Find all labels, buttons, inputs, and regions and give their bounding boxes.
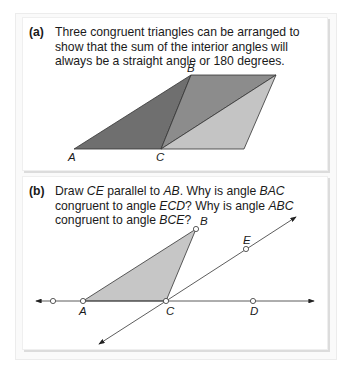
triangle-abc bbox=[83, 229, 196, 301]
line-ce-up bbox=[166, 217, 296, 301]
point-c bbox=[163, 298, 168, 303]
line-ce-down bbox=[99, 301, 166, 344]
point-e bbox=[243, 246, 248, 251]
point-label-c: C bbox=[156, 151, 165, 163]
point-b bbox=[193, 226, 198, 231]
point-label-b: B bbox=[187, 62, 195, 74]
point-left bbox=[50, 298, 55, 303]
point-label-b: B bbox=[200, 215, 208, 227]
point-label-d: D bbox=[250, 305, 258, 317]
point-a bbox=[80, 298, 85, 303]
point-label-a: A bbox=[67, 151, 76, 163]
panel-b: (b) Draw CE parallel to AB. Why is angle… bbox=[22, 176, 328, 350]
point-label-a: A bbox=[78, 305, 87, 317]
point-label-e: E bbox=[243, 234, 251, 246]
point-label-c: C bbox=[166, 305, 175, 317]
point-d bbox=[250, 298, 255, 303]
panel-a: (a) Three congruent triangles can be arr… bbox=[22, 17, 328, 171]
parallel-lines-diagram: A C D B E bbox=[23, 177, 327, 349]
triangle-arrangement-diagram: A C B bbox=[23, 18, 327, 170]
